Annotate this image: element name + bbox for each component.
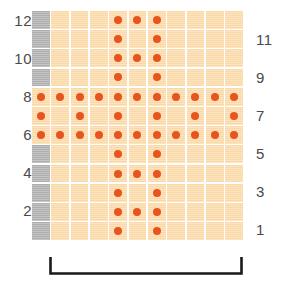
stitch-cell[interactable] (206, 145, 224, 163)
stitch-cell[interactable] (51, 222, 69, 240)
stitch-cell[interactable] (206, 107, 224, 125)
stitch-cell[interactable] (225, 184, 243, 202)
stitch-cell[interactable] (167, 88, 185, 106)
stitch-cell[interactable] (51, 203, 69, 221)
stitch-cell[interactable] (225, 107, 243, 125)
stitch-cell[interactable] (109, 30, 127, 48)
stitch-cell[interactable] (109, 184, 127, 202)
stitch-cell[interactable] (187, 88, 205, 106)
stitch-cell[interactable] (71, 165, 89, 183)
stitch-cell[interactable] (90, 165, 108, 183)
stitch-cell[interactable] (187, 165, 205, 183)
stitch-cell[interactable] (129, 165, 147, 183)
stitch-cell[interactable] (71, 126, 89, 144)
stitch-cell[interactable] (109, 126, 127, 144)
stitch-cell[interactable] (51, 69, 69, 87)
stitch-cell[interactable] (148, 165, 166, 183)
stitch-cell[interactable] (129, 203, 147, 221)
stitch-cell[interactable] (51, 30, 69, 48)
stitch-cell[interactable] (206, 203, 224, 221)
stitch-cell[interactable] (187, 69, 205, 87)
stitch-cell[interactable] (129, 11, 147, 29)
stitch-cell[interactable] (187, 11, 205, 29)
stitch-cell[interactable] (71, 184, 89, 202)
stitch-cell[interactable] (90, 203, 108, 221)
stitch-cell[interactable] (51, 145, 69, 163)
stitch-cell[interactable] (187, 126, 205, 144)
stitch-cell[interactable] (148, 88, 166, 106)
stitch-cell[interactable] (206, 49, 224, 67)
stitch-cell[interactable] (167, 222, 185, 240)
stitch-cell[interactable] (51, 165, 69, 183)
stitch-cell[interactable] (71, 49, 89, 67)
stitch-cell[interactable] (90, 145, 108, 163)
stitch-cell[interactable] (32, 49, 50, 67)
stitch-cell[interactable] (187, 30, 205, 48)
stitch-cell[interactable] (32, 222, 50, 240)
stitch-cell[interactable] (148, 49, 166, 67)
stitch-cell[interactable] (148, 126, 166, 144)
stitch-cell[interactable] (206, 184, 224, 202)
stitch-cell[interactable] (90, 30, 108, 48)
stitch-cell[interactable] (90, 222, 108, 240)
stitch-cell[interactable] (129, 107, 147, 125)
stitch-cell[interactable] (167, 49, 185, 67)
stitch-cell[interactable] (129, 88, 147, 106)
stitch-cell[interactable] (109, 88, 127, 106)
stitch-cell[interactable] (109, 145, 127, 163)
stitch-cell[interactable] (148, 203, 166, 221)
stitch-cell[interactable] (109, 222, 127, 240)
stitch-cell[interactable] (71, 30, 89, 48)
stitch-cell[interactable] (51, 107, 69, 125)
stitch-cell[interactable] (187, 203, 205, 221)
stitch-cell[interactable] (167, 11, 185, 29)
stitch-cell[interactable] (51, 11, 69, 29)
stitch-cell[interactable] (129, 30, 147, 48)
stitch-cell[interactable] (90, 11, 108, 29)
stitch-cell[interactable] (167, 69, 185, 87)
stitch-cell[interactable] (225, 222, 243, 240)
stitch-cell[interactable] (32, 107, 50, 125)
stitch-cell[interactable] (32, 165, 50, 183)
stitch-cell[interactable] (206, 11, 224, 29)
stitch-cell[interactable] (51, 49, 69, 67)
stitch-cell[interactable] (148, 69, 166, 87)
stitch-cell[interactable] (109, 165, 127, 183)
stitch-cell[interactable] (51, 126, 69, 144)
stitch-cell[interactable] (109, 49, 127, 67)
stitch-cell[interactable] (109, 107, 127, 125)
stitch-cell[interactable] (71, 69, 89, 87)
stitch-cell[interactable] (148, 30, 166, 48)
stitch-cell[interactable] (32, 203, 50, 221)
stitch-cell[interactable] (51, 184, 69, 202)
stitch-cell[interactable] (225, 11, 243, 29)
stitch-cell[interactable] (206, 30, 224, 48)
stitch-cell[interactable] (71, 222, 89, 240)
stitch-cell[interactable] (90, 184, 108, 202)
stitch-cell[interactable] (167, 184, 185, 202)
stitch-cell[interactable] (71, 203, 89, 221)
stitch-cell[interactable] (167, 126, 185, 144)
stitch-cell[interactable] (90, 69, 108, 87)
stitch-cell[interactable] (187, 107, 205, 125)
stitch-cell[interactable] (225, 49, 243, 67)
stitch-cell[interactable] (129, 126, 147, 144)
stitch-cell[interactable] (32, 184, 50, 202)
stitch-cell[interactable] (148, 184, 166, 202)
stitch-grid[interactable] (32, 11, 243, 240)
stitch-cell[interactable] (109, 11, 127, 29)
stitch-cell[interactable] (129, 222, 147, 240)
stitch-cell[interactable] (51, 88, 69, 106)
stitch-cell[interactable] (32, 88, 50, 106)
stitch-cell[interactable] (167, 145, 185, 163)
stitch-cell[interactable] (225, 165, 243, 183)
stitch-cell[interactable] (90, 49, 108, 67)
stitch-cell[interactable] (187, 222, 205, 240)
stitch-cell[interactable] (148, 145, 166, 163)
stitch-cell[interactable] (225, 126, 243, 144)
stitch-cell[interactable] (129, 145, 147, 163)
stitch-cell[interactable] (129, 184, 147, 202)
stitch-cell[interactable] (225, 88, 243, 106)
stitch-cell[interactable] (71, 145, 89, 163)
stitch-cell[interactable] (90, 88, 108, 106)
